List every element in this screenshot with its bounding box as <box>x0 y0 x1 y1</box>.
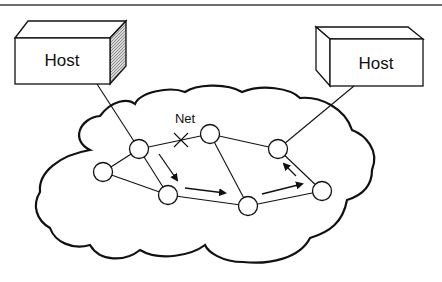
network-nodes <box>94 125 332 216</box>
arrow-icon <box>185 188 225 193</box>
net-label: Net <box>175 111 196 126</box>
node-g <box>313 182 332 201</box>
node-d <box>201 125 220 144</box>
host-left-label: Host <box>45 51 80 70</box>
network-cloud <box>36 86 374 263</box>
host-left: Host <box>15 21 126 84</box>
broken-link-marker <box>174 133 188 147</box>
node-e <box>239 197 258 216</box>
host-right-link <box>278 86 354 149</box>
node-b <box>94 163 113 182</box>
node-a <box>130 140 149 159</box>
arrow-icon <box>159 154 177 180</box>
node-f <box>269 140 288 159</box>
node-c <box>159 186 178 205</box>
network-diagram: Host Host Net <box>0 0 442 282</box>
host-left-link <box>97 84 139 149</box>
host-right-label: Host <box>359 54 394 73</box>
arrow-icon <box>262 184 302 194</box>
host-right: Host <box>316 27 423 86</box>
arrow-icon <box>284 164 296 176</box>
